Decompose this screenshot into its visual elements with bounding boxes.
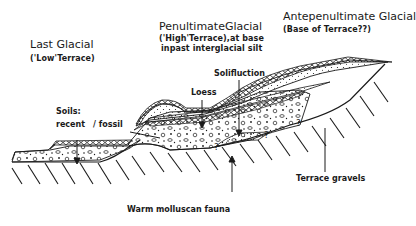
label-warm-molluscan-fauna: Warm molluscan fauna [127,205,230,214]
subheading-penultimate-line2: inpast interglacial silt [161,44,262,53]
question-mark: ? [296,118,301,128]
subheading-last-glacial: ('Low'Terrace) [30,54,95,63]
label-solifluction: Solifluction [214,69,265,78]
question-mark: ? [214,142,219,152]
label-soils-fossil: / fossil [93,120,123,129]
label-soils-recent: recent [56,120,85,129]
label-loess: Loess [191,88,217,97]
subheading-penultimate-line1: ('High'Terrace),at base [159,34,264,43]
heading-last-glacial: Last Glacial [30,38,94,51]
heading-penultimate-glacial: PenultimateGlacial [159,20,262,33]
question-mark: ? [264,130,269,140]
subheading-antepenultimate: (Base of Terrace??) [283,25,371,34]
heading-antepenultimate-glacial: Antepenultimate Glacial [283,10,416,23]
label-soils: Soils: [56,107,81,116]
label-terrace-gravels: Terrace gravels [296,174,365,183]
